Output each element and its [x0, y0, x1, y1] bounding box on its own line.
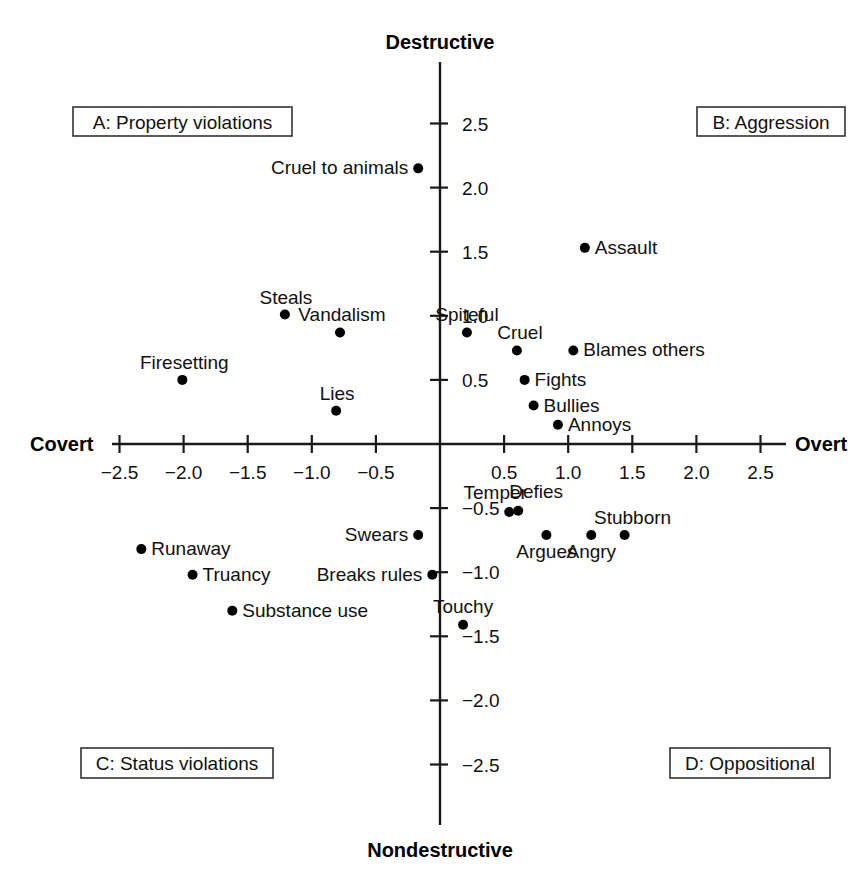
x-tick-label: −1.5 [229, 462, 267, 483]
quadrant-label-a: A: Property violations [73, 107, 292, 136]
point-marker [553, 420, 563, 430]
y-tick-label: −2.5 [462, 755, 500, 776]
pole-label-covert: Covert [30, 433, 94, 455]
point-marker [504, 507, 514, 517]
point-marker [136, 544, 146, 554]
point-label: Truancy [203, 564, 271, 585]
point-marker [520, 375, 530, 385]
point-marker [227, 606, 237, 616]
data-point[interactable]: Angry [566, 530, 616, 562]
point-marker [413, 530, 423, 540]
point-label: Substance use [242, 600, 368, 621]
point-label: Annoys [568, 414, 631, 435]
point-label: Spiteful [435, 304, 498, 325]
point-label: Bullies [544, 395, 600, 416]
point-label: Runaway [151, 538, 231, 559]
data-point[interactable]: Swears [345, 524, 423, 545]
pole-label-overt: Overt [795, 433, 848, 455]
point-marker [331, 406, 341, 416]
point-marker [513, 506, 523, 516]
quadrant-label-b: B: Aggression [697, 107, 845, 136]
quadrant-label-d: D: Oppositional [670, 748, 830, 778]
y-tick-label: −2.0 [462, 690, 500, 711]
data-point[interactable]: Stubborn [594, 507, 671, 540]
data-point[interactable]: Annoys [553, 414, 631, 435]
point-marker [541, 530, 551, 540]
point-marker [529, 401, 539, 411]
data-points-group: Cruel to animalsAssaultStealsVandalismSp… [136, 157, 704, 629]
point-label: Firesetting [140, 352, 229, 373]
y-tick-label: −1.0 [462, 562, 500, 583]
point-label: Blames others [583, 339, 704, 360]
point-label: Defies [509, 481, 563, 502]
y-tick-label: 0.5 [462, 370, 488, 391]
point-label: Fights [535, 369, 587, 390]
point-label: Assault [595, 237, 658, 258]
x-tick-label: −1.0 [293, 462, 331, 483]
y-tick-label: 2.0 [462, 178, 488, 199]
data-point[interactable]: Defies [509, 481, 563, 516]
chart-page: −2.5−2.0−1.5−1.0−0.50.51.01.52.02.5 2.52… [0, 0, 866, 871]
point-label: Vandalism [298, 304, 385, 325]
data-point[interactable]: Fights [520, 369, 587, 390]
point-marker [188, 570, 198, 580]
y-tick-label: 2.5 [462, 114, 488, 135]
quadrant-box-label: A: Property violations [93, 112, 273, 133]
point-label: Breaks rules [317, 564, 423, 585]
quadrant-label-c: C: Status violations [81, 748, 273, 778]
x-tick-label: 1.5 [619, 462, 645, 483]
x-tick-label: −0.5 [357, 462, 395, 483]
point-marker [512, 345, 522, 355]
pole-label-nondestructive: Nondestructive [367, 839, 513, 861]
behavior-quadrant-scatter-plot: −2.5−2.0−1.5−1.0−0.50.51.01.52.02.5 2.52… [0, 0, 866, 871]
point-label: Angry [566, 541, 616, 562]
data-point[interactable]: Cruel [497, 322, 542, 355]
point-marker [335, 327, 345, 337]
quadrant-box-label: D: Oppositional [685, 753, 815, 774]
pole-label-destructive: Destructive [386, 31, 495, 53]
x-tick-label: −2.5 [101, 462, 139, 483]
point-label: Swears [345, 524, 408, 545]
point-label: Touchy [433, 596, 494, 617]
x-tick-label: 2.5 [747, 462, 773, 483]
axes-group [112, 62, 786, 825]
data-point[interactable]: Truancy [188, 564, 271, 585]
data-point[interactable]: Bullies [529, 395, 600, 416]
point-marker [427, 570, 437, 580]
data-point[interactable]: Touchy [433, 596, 494, 630]
data-point[interactable]: Substance use [227, 600, 368, 621]
point-marker [458, 620, 468, 630]
point-label: Lies [320, 383, 355, 404]
y-tick-label: 1.5 [462, 242, 488, 263]
x-tick-label: 2.0 [683, 462, 709, 483]
pole-labels-group: Destructive Nondestructive Covert Overt [30, 31, 848, 861]
point-label: Cruel to animals [271, 157, 408, 178]
x-axis-ticks: −2.5−2.0−1.5−1.0−0.50.51.01.52.02.5 [101, 435, 774, 483]
data-point[interactable]: Cruel to animals [271, 157, 423, 178]
x-tick-label: −2.0 [165, 462, 203, 483]
data-point[interactable]: Breaks rules [317, 564, 438, 585]
point-marker [413, 163, 423, 173]
quadrant-box-label: B: Aggression [712, 112, 829, 133]
point-marker [177, 375, 187, 385]
y-tick-label: −1.5 [462, 626, 500, 647]
point-marker [280, 310, 290, 320]
data-point[interactable]: Spiteful [435, 304, 498, 337]
data-point[interactable]: Lies [320, 383, 355, 416]
quadrant-box-label: C: Status violations [96, 753, 259, 774]
point-label: Cruel [497, 322, 542, 343]
point-marker [462, 327, 472, 337]
data-point[interactable]: Vandalism [298, 304, 385, 337]
point-marker [580, 243, 590, 253]
point-marker [620, 530, 630, 540]
quadrant-labels-group: A: Property violationsB: AggressionC: St… [73, 107, 845, 778]
data-point[interactable]: Blames others [568, 339, 704, 360]
data-point[interactable]: Runaway [136, 538, 231, 559]
point-label: Stubborn [594, 507, 671, 528]
point-marker [568, 345, 578, 355]
data-point[interactable]: Firesetting [140, 352, 229, 385]
data-point[interactable]: Assault [580, 237, 658, 258]
point-marker [586, 530, 596, 540]
